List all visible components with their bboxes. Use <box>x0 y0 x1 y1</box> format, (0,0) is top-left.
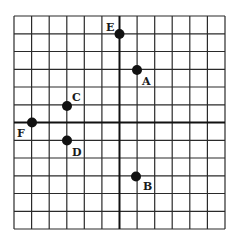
point-a <box>132 65 142 75</box>
label-d: D <box>72 146 82 159</box>
coordinate-grid: E A C F D B <box>0 0 233 241</box>
point-b <box>131 172 141 182</box>
point-d <box>62 136 72 146</box>
point-f <box>27 118 37 128</box>
point-c <box>62 101 72 111</box>
axes <box>14 16 225 229</box>
point-e <box>115 29 125 39</box>
label-f: F <box>17 127 25 140</box>
label-e: E <box>106 21 114 34</box>
label-b: B <box>143 180 152 193</box>
label-c: C <box>72 91 81 104</box>
label-a: A <box>141 75 151 88</box>
